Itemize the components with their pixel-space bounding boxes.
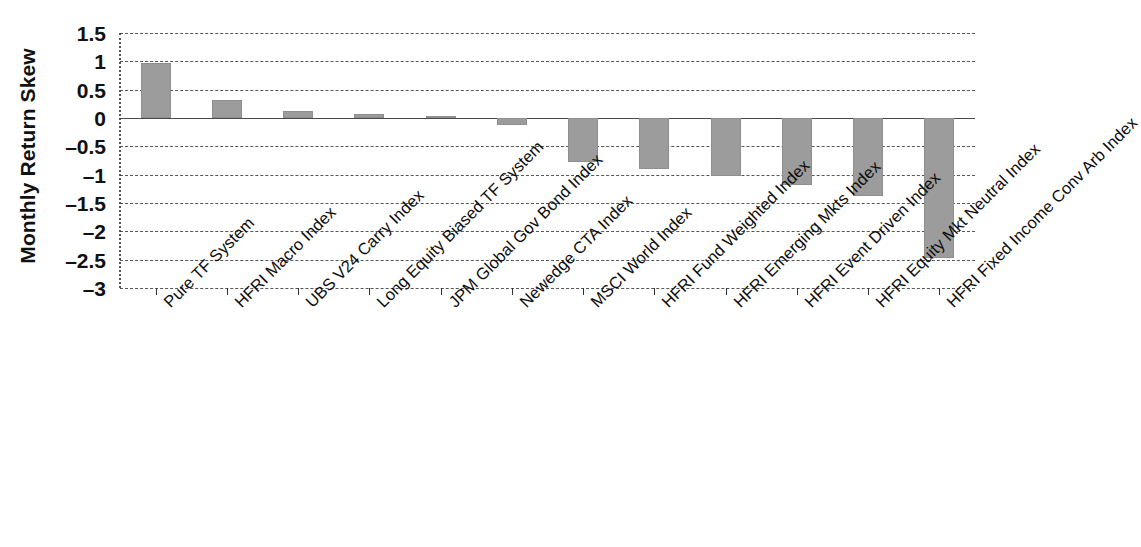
x-tick-mark <box>512 288 513 295</box>
y-tick-label: 1 <box>94 51 106 72</box>
bar[interactable] <box>497 118 527 125</box>
x-tick-mark <box>726 288 727 295</box>
gridline <box>120 33 975 34</box>
x-tick-mark <box>156 288 157 295</box>
y-tick-label: 1.5 <box>77 23 106 44</box>
x-tick-mark <box>369 288 370 295</box>
bar[interactable] <box>354 114 384 118</box>
y-tick-label: –1 <box>83 164 106 185</box>
gridline <box>120 61 975 62</box>
bar[interactable] <box>639 118 669 169</box>
gridline <box>120 90 975 91</box>
x-tick-mark <box>227 288 228 295</box>
x-tick-mark <box>939 288 940 295</box>
x-tick-mark <box>868 288 869 295</box>
bar[interactable] <box>283 111 313 118</box>
gridline <box>120 146 975 147</box>
bar[interactable] <box>141 63 171 118</box>
y-axis-title: Monthly Return Skew <box>8 46 48 266</box>
x-tick-mark <box>298 288 299 295</box>
gridline <box>120 175 975 176</box>
y-tick-label: –1.5 <box>65 193 106 214</box>
plot-area <box>120 33 975 288</box>
x-tick-mark <box>654 288 655 295</box>
y-tick-label: 0 <box>94 108 106 129</box>
y-tick-label: –3 <box>83 278 106 299</box>
bar[interactable] <box>711 118 741 176</box>
y-axis-tick-labels: 1.510.50–0.5–1–1.5–2–2.5–3 <box>44 0 114 547</box>
x-tick-mark <box>441 288 442 295</box>
y-axis-title-text: Monthly Return Skew <box>16 48 40 263</box>
bar[interactable] <box>212 100 242 118</box>
y-axis-line <box>119 33 121 288</box>
y-tick-label: 0.5 <box>77 79 106 100</box>
y-tick-label: –2.5 <box>65 249 106 270</box>
y-tick-label: –0.5 <box>65 136 106 157</box>
x-tick-mark <box>797 288 798 295</box>
x-tick-mark <box>583 288 584 295</box>
zero-baseline <box>120 118 975 119</box>
bar[interactable] <box>426 116 456 118</box>
y-tick-label: –2 <box>83 221 106 242</box>
